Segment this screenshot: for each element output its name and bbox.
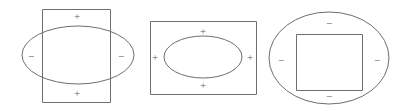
figure-3-label-top: −	[326, 17, 332, 29]
figure-1-label-left: −	[28, 50, 34, 62]
figure-2-label-top: +	[200, 25, 206, 37]
figure-1-label-top: +	[74, 10, 80, 22]
figure-3-square	[297, 35, 363, 91]
figure-1-label-bottom: +	[74, 87, 80, 99]
figure-3-label-left: −	[278, 54, 284, 66]
figure-1-label-right: −	[118, 50, 124, 62]
figure-2-label-left: +	[152, 51, 158, 63]
figure-3-label-bottom: −	[326, 90, 332, 102]
figure-1-group: + − − +	[22, 10, 134, 103]
figure-2-label-bottom: +	[200, 79, 206, 91]
figure-3-label-right: −	[374, 54, 380, 66]
figure-2-label-right: +	[247, 51, 253, 63]
figure-2-ellipse	[164, 36, 242, 78]
shape-diagram-canvas: + − − + + + + + − − − −	[0, 0, 404, 111]
figure-3-group: − − − −	[269, 12, 389, 104]
figure-2-group: + + + +	[151, 22, 257, 95]
